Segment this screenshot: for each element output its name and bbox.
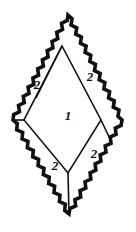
figure-canvas: 22122 <box>0 0 136 232</box>
region-label-center: 1 <box>65 108 72 123</box>
bottom-apex-connector <box>68 173 69 214</box>
diamond-diagram: 22122 <box>0 0 136 232</box>
region-label-lower-left: 2 <box>51 158 59 173</box>
region-label-upper-left: 2 <box>33 77 41 92</box>
region-label-lower-right: 2 <box>90 146 98 161</box>
region-label-upper-right: 2 <box>86 69 94 84</box>
